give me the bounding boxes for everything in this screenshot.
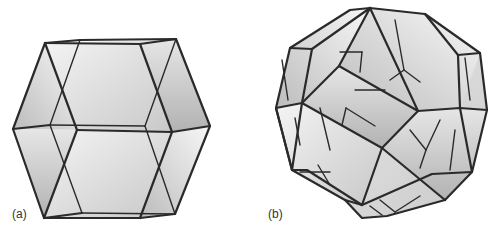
panel-label-b: (b) bbox=[268, 207, 283, 221]
panel-label-a: (a) bbox=[12, 207, 27, 221]
edge-a bbox=[45, 43, 140, 44]
hidden-edge-a bbox=[82, 213, 175, 214]
hidden-edge-a bbox=[50, 125, 145, 126]
polyhedron-b bbox=[276, 8, 487, 218]
polyhedron-a bbox=[13, 39, 210, 218]
figure-canvas bbox=[0, 0, 495, 235]
